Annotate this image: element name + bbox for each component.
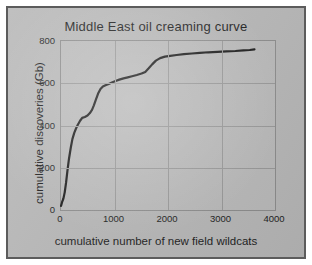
y-axis-label: cumulative discoveries (Gb) (33, 38, 45, 228)
gridline-horizontal (61, 126, 275, 127)
chart-figure: Middle East oil creaming curve cumulativ… (6, 6, 306, 259)
gridline-horizontal (61, 83, 275, 84)
gridline-horizontal (61, 168, 275, 169)
y-tick-label: 0 (15, 204, 55, 215)
x-tick-label: 4000 (252, 213, 296, 224)
x-tick-label: 1000 (92, 213, 136, 224)
y-tick-label: 400 (15, 119, 55, 130)
chart-title-text: Middle East oil creaming curve (64, 19, 247, 34)
y-tick-label: 600 (15, 77, 55, 88)
y-tick-label: 800 (15, 35, 55, 46)
x-tick-label: 3000 (199, 213, 243, 224)
x-axis-label: cumulative number of new field wildcats (8, 235, 304, 247)
plot-area (60, 40, 276, 211)
y-tick-label: 200 (15, 161, 55, 172)
chart-title: Middle East oil creaming curve (8, 19, 304, 34)
x-tick-label: 2000 (145, 213, 189, 224)
x-tick-label: 0 (38, 213, 82, 224)
